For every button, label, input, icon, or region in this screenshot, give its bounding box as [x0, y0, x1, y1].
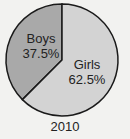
year-caption: 2010: [40, 119, 90, 134]
girls-name: Girls: [64, 57, 110, 72]
girls-label: Girls 62.5%: [64, 57, 110, 87]
girls-percent: 62.5%: [64, 72, 110, 87]
boys-percent: 37.5%: [18, 46, 64, 61]
boys-label: Boys 37.5%: [18, 31, 64, 61]
boys-name: Boys: [18, 31, 64, 46]
